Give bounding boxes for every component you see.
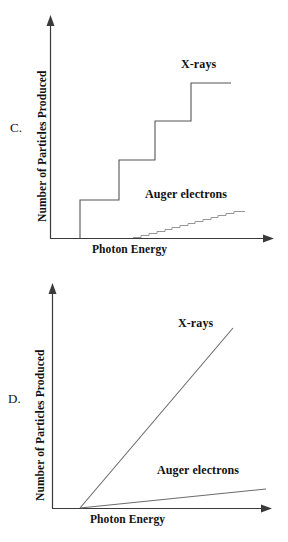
series-curve-auger-c <box>133 212 245 238</box>
figure-panel-c: C. Number of Particles Produced Photon E… <box>0 0 288 271</box>
x-axis-arrowhead-c <box>263 235 274 243</box>
y-axis-arrowhead-d <box>49 283 57 294</box>
figure-panel-d: D. Number of Particles Produced Photon E… <box>0 271 288 542</box>
series-curve-xrays-c <box>80 83 231 238</box>
x-axis-arrowhead-d <box>261 505 272 513</box>
series-curve-xrays-d <box>80 328 233 508</box>
plot-area-d <box>0 271 288 542</box>
plot-area-c <box>0 0 288 271</box>
series-curve-auger-d <box>80 489 266 508</box>
y-axis-arrowhead-c <box>47 15 55 26</box>
